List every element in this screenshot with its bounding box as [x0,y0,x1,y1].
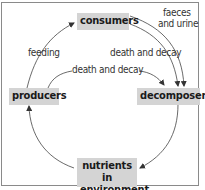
node-producers-label: producers [12,89,66,102]
node-decomposers: decomposers [137,88,200,105]
node-nutrients-line1: nutrients in [80,160,134,184]
label-faeces: faeces and urine [158,7,198,29]
arrow-decomposers-nutrients [140,104,178,168]
label-feeding: feeding [28,47,60,58]
node-consumers: consumers [77,13,129,30]
arrow-nutrients-producers [29,106,74,168]
label-consumers-death: death and decay [110,47,181,58]
label-faeces-line1: faeces [158,7,198,18]
arrow-producers-death-a [48,71,72,88]
node-consumers-label: consumers [80,14,139,27]
node-nutrients: nutrients in environment [77,158,137,187]
label-faeces-line2: and urine [158,18,198,29]
node-producers: producers [9,88,59,105]
label-producers-death: death and decay [72,64,143,75]
node-nutrients-line2: environment [80,184,134,190]
node-decomposers-label: decomposers [140,89,205,102]
